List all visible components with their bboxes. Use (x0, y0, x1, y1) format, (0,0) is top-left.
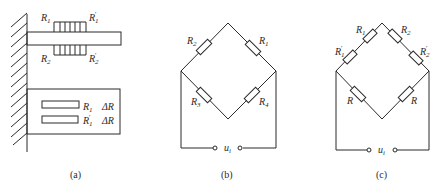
label-ui-c: ui (378, 144, 385, 157)
plan-label-R1: R1 (82, 101, 93, 114)
caption-b: (b) (221, 169, 233, 181)
gauge-bottom (54, 45, 86, 55)
resistor-R2-c (388, 29, 402, 43)
gauge-top (54, 22, 86, 32)
label-R2-prime-c: R2′ (419, 44, 430, 59)
label-R2: R2 (40, 53, 51, 66)
resistor-R4-b (244, 87, 260, 103)
label-R2-prime: R2′ (88, 51, 99, 66)
plan-gauge-R1 (42, 101, 79, 108)
left-lead-b (181, 71, 213, 148)
terminal-right-b (238, 146, 242, 150)
panel-b: R2 R1 R3 R4 ui (b) (181, 23, 276, 181)
label-R1-b: R1 (258, 35, 269, 48)
label-R1-prime-c: R1′ (334, 44, 345, 59)
plan-gauge-R1-prime (42, 116, 78, 123)
plan-label-deltaR-2: ΔR (101, 115, 114, 126)
right-lead-b (243, 71, 276, 148)
right-lead-c (397, 71, 429, 150)
resistor-R2-b (196, 39, 212, 55)
panel-a: R1 R1′ R2 R2′ R1 ΔR R1′ ΔR (a) (11, 10, 121, 181)
panel-c: R1 R1′ R2 R2′ R R ui (c) (334, 23, 430, 181)
label-R1-prime: R1′ (88, 10, 99, 25)
label-R-right-c: R (410, 95, 417, 106)
label-R3-b: R3 (190, 96, 201, 109)
label-R-left-c: R (346, 95, 353, 106)
label-R1: R1 (40, 12, 51, 25)
label-R4-b: R4 (258, 96, 269, 109)
terminal-left-c (367, 148, 371, 152)
plan-label-deltaR-1: ΔR (101, 101, 114, 112)
caption-c: (c) (376, 169, 387, 181)
terminal-left-b (213, 146, 217, 150)
label-R1-c: R1 (355, 24, 366, 37)
label-R2-b: R2 (186, 35, 197, 48)
caption-a: (a) (70, 169, 81, 181)
terminal-right-c (393, 148, 397, 152)
cantilever-beam-side (27, 32, 121, 45)
wall-hatching (11, 13, 27, 145)
label-ui-b: ui (224, 142, 231, 155)
label-R2-c: R2 (400, 24, 411, 37)
resistor-R1-prime-c (343, 50, 357, 64)
strain-gauge-figure: R1 R1′ R2 R2′ R1 ΔR R1′ ΔR (a) R2 R1 R3 … (0, 0, 438, 191)
plan-label-R1-prime: R1′ (82, 113, 93, 128)
left-lead-c (336, 71, 367, 150)
